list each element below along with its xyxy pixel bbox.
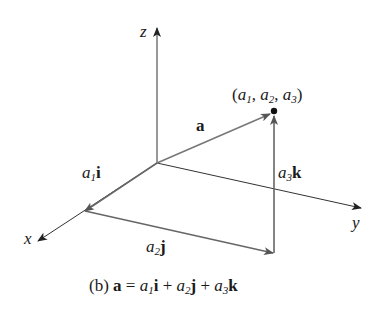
y-axis-label: y — [350, 213, 360, 232]
vector-a-label: a — [196, 116, 205, 135]
figure-caption: (b) a = a1i + a2j + a3k — [89, 276, 238, 296]
z-axis-label: z — [139, 22, 147, 41]
point-label: (a1, a2, a3) — [232, 85, 302, 105]
a2j-label: a2j — [146, 237, 166, 257]
a-vector — [157, 114, 270, 163]
x-axis-label: x — [23, 229, 32, 248]
a1i-label: a1i — [82, 163, 101, 183]
y-axis — [157, 163, 361, 208]
vector-components-diagram: z y x a (a1, a2, a3) a1i a2j a3k (b) a =… — [0, 0, 382, 318]
a3k-label: a3k — [278, 163, 302, 183]
point-marker — [271, 108, 277, 114]
a2j-vector — [85, 211, 273, 253]
